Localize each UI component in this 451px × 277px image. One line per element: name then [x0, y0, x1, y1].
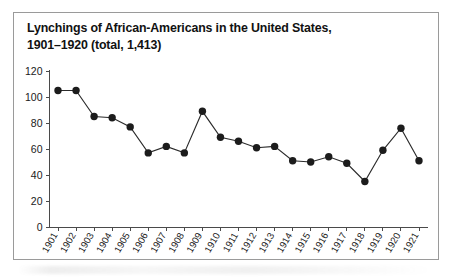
x-axis: 1901190219031904190519061907190819091910…	[40, 227, 428, 254]
data-point-marker	[181, 149, 188, 156]
data-series-lynchings	[54, 87, 422, 185]
data-point-marker	[343, 160, 350, 167]
x-axis-tick-label: 1918	[346, 231, 366, 255]
x-axis-tick-label: 1915	[292, 231, 312, 255]
data-point-marker	[108, 114, 115, 121]
x-axis-tick-label: 1913	[256, 231, 276, 255]
x-axis-tick-label: 1903	[76, 231, 96, 255]
data-point-marker	[217, 134, 224, 141]
x-axis-tick-label: 1910	[202, 231, 222, 255]
x-axis-tick-label: 1916	[310, 231, 330, 255]
data-point-marker	[199, 108, 206, 115]
y-axis: 020406080100120	[25, 65, 50, 233]
x-axis-tick-label: 1911	[220, 231, 240, 254]
series-polyline	[58, 91, 419, 182]
y-axis-tick-label: 80	[31, 117, 43, 129]
data-point-marker	[145, 149, 152, 156]
x-axis-tick-label: 1920	[382, 231, 402, 255]
y-axis-tick-label: 40	[31, 169, 43, 181]
chart-svg: 020406080100120 190119021903190419051906…	[0, 0, 451, 277]
x-axis-tick-label: 1912	[238, 231, 258, 255]
y-axis-tick-label: 100	[25, 91, 43, 103]
x-axis-tick-label: 1908	[166, 231, 186, 255]
data-point-marker	[235, 138, 242, 145]
y-axis-tick-label: 60	[31, 143, 43, 155]
data-point-marker	[415, 157, 422, 164]
y-axis-tick-label: 20	[31, 195, 43, 207]
x-axis-tick-label: 1914	[274, 230, 295, 255]
data-point-marker	[361, 178, 368, 185]
x-axis-tick-label: 1917	[328, 231, 348, 255]
data-point-marker	[307, 158, 314, 165]
x-axis-tick-label: 1902	[58, 231, 78, 255]
plot-area: 020406080100120 190119021903190419051906…	[0, 0, 451, 277]
data-point-marker	[271, 143, 278, 150]
data-point-marker	[253, 144, 260, 151]
x-axis-tick-label: 1909	[184, 231, 204, 255]
data-point-marker	[379, 147, 386, 154]
x-axis-tick-label: 1901	[40, 231, 60, 255]
y-axis-tick-label: 0	[37, 221, 43, 233]
data-point-marker	[289, 157, 296, 164]
chart-figure: Lynchings of African-Americans in the Un…	[0, 0, 451, 277]
data-point-marker	[90, 113, 97, 120]
page-artifact	[18, 266, 433, 274]
data-point-marker	[54, 87, 61, 94]
data-point-marker	[325, 153, 332, 160]
data-point-marker	[127, 123, 134, 130]
x-axis-tick-label: 1921	[401, 231, 421, 255]
x-axis-tick-label: 1906	[130, 231, 150, 255]
x-axis-tick-label: 1904	[94, 230, 115, 255]
data-point-marker	[163, 143, 170, 150]
data-point-marker	[397, 125, 404, 132]
x-axis-tick-label: 1907	[148, 231, 168, 255]
x-axis-tick-label: 1905	[112, 231, 132, 255]
x-axis-tick-label: 1919	[364, 231, 384, 255]
data-point-marker	[72, 87, 79, 94]
y-axis-tick-label: 120	[25, 65, 43, 77]
